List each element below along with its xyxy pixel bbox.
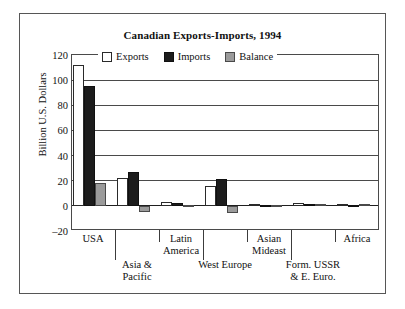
imports-swatch-icon — [164, 52, 174, 62]
y-tick-label: 100 — [52, 75, 68, 86]
exports-swatch-icon — [102, 52, 112, 62]
bar-exports — [293, 203, 304, 206]
bar-imports — [128, 172, 139, 206]
bar-imports — [348, 205, 359, 207]
bar-imports — [260, 205, 271, 207]
x-category-label: Africa — [315, 233, 399, 245]
bar-exports — [249, 204, 260, 206]
gridline-80 — [72, 105, 378, 106]
legend-item-imports[interactable]: Imports — [164, 51, 211, 62]
page-title: Canadian Exports-Imports, 1994 — [20, 29, 385, 41]
x-category-label: Form. USSR & E. Euro. — [271, 259, 355, 283]
legend-item-balance[interactable]: Balance — [225, 51, 273, 62]
legend-item-exports[interactable]: Exports — [102, 51, 149, 62]
plot-area: 120100806040200–20 — [71, 54, 379, 230]
y-tick-label: 120 — [52, 50, 68, 61]
bar-balance — [95, 183, 106, 206]
gridline-40 — [72, 155, 378, 156]
bar-balance — [227, 206, 238, 214]
y-tick-label: 80 — [58, 100, 69, 111]
x-category-label: West Europe — [183, 259, 267, 271]
bar-imports — [84, 86, 95, 205]
category-separator — [203, 230, 204, 260]
x-category-label: Asia & Pacific — [95, 259, 179, 283]
gridline-60 — [72, 130, 378, 131]
y-axis-title: Billion U.S. Dollars — [37, 55, 48, 175]
y-tick-label: 60 — [58, 125, 69, 136]
balance-swatch-icon — [225, 52, 235, 62]
bar-imports — [172, 203, 183, 206]
bar-imports — [304, 204, 315, 206]
bar-balance — [139, 206, 150, 212]
gridline-100 — [72, 80, 378, 81]
bar-exports — [117, 178, 128, 206]
x-category-label: Latin America — [139, 233, 223, 257]
bar-exports — [73, 65, 84, 206]
bar-balance — [359, 204, 370, 206]
legend-label: Imports — [178, 51, 211, 62]
bar-exports — [161, 202, 172, 206]
bar-balance — [271, 205, 282, 207]
x-category-label: USA — [51, 233, 135, 245]
legend-label: Balance — [239, 51, 273, 62]
category-separator — [291, 230, 292, 260]
bar-exports — [337, 204, 348, 206]
bar-balance — [183, 205, 194, 207]
y-tick-label: 40 — [58, 150, 69, 161]
bar-imports — [216, 179, 227, 205]
chart-legend: ExportsImportsBalance — [98, 50, 277, 63]
legend-label: Exports — [116, 51, 149, 62]
x-category-label: Asian Mideast — [227, 233, 311, 257]
bar-balance — [315, 204, 326, 206]
category-separator — [115, 230, 116, 260]
y-tick-label: 0 — [63, 200, 68, 211]
figure-frame: Canadian Exports-Imports, 1994 Billion U… — [19, 13, 386, 294]
y-tick-label: 20 — [58, 175, 69, 186]
bar-exports — [205, 186, 216, 206]
